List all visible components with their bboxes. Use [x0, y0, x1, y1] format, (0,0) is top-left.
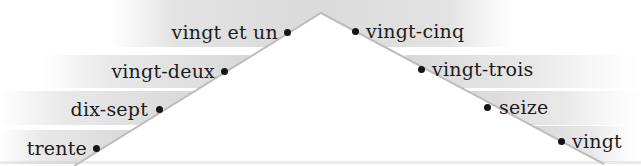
- number-mountain-figure: vingt et un vingt-deux dix-sept trente v…: [0, 0, 641, 166]
- mountain-diagram-canvas: [0, 0, 641, 166]
- dot-trente: [93, 145, 100, 152]
- scan-artifact-strip: [0, 161, 641, 164]
- label-vingt-et-un: vingt et un: [172, 23, 278, 42]
- label-vingt-deux: vingt-deux: [111, 62, 215, 81]
- dot-vingt-deux: [221, 68, 228, 75]
- label-seize: seize: [499, 98, 548, 117]
- dot-dix-sept: [156, 106, 163, 113]
- dot-vingt-et-un: [284, 29, 291, 36]
- label-vingt-trois: vingt-trois: [432, 60, 533, 79]
- dot-vingt-cinq: [352, 28, 359, 35]
- label-dix-sept: dix-sept: [71, 100, 148, 119]
- label-vingt-cinq: vingt-cinq: [366, 22, 464, 41]
- dot-vingt: [558, 138, 565, 145]
- label-trente: trente: [27, 139, 87, 158]
- label-vingt: vingt: [572, 132, 622, 151]
- dot-vingt-trois: [418, 66, 425, 73]
- dot-seize: [484, 104, 491, 111]
